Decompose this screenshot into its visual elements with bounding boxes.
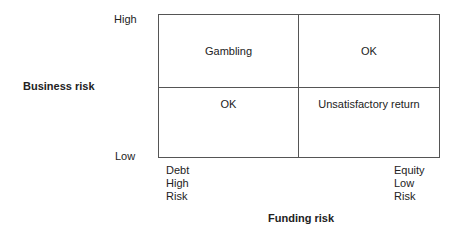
quadrant-bottom-right: Unsatisfactory return bbox=[299, 88, 439, 157]
y-axis-low-label: Low bbox=[115, 150, 135, 163]
x-left-line-1: Debt bbox=[166, 164, 189, 177]
x-axis-left-label: Debt High Risk bbox=[166, 164, 189, 203]
x-right-line-2: Low bbox=[394, 177, 425, 190]
quadrant-top-right: OK bbox=[299, 15, 439, 87]
x-axis-right-label: Equity Low Risk bbox=[394, 164, 425, 203]
quadrant-bottom-left: OK bbox=[159, 88, 298, 157]
quadrant-grid: Gambling OK OK Unsatisfactory return bbox=[158, 14, 440, 158]
x-left-line-3: Risk bbox=[166, 190, 189, 203]
quadrant-bottom-right-label: Unsatisfactory return bbox=[318, 98, 419, 110]
y-axis-title: Business risk bbox=[23, 80, 95, 93]
y-axis-high-label: High bbox=[114, 13, 137, 26]
quadrant-top-left-label: Gambling bbox=[205, 45, 252, 57]
x-left-line-2: High bbox=[166, 177, 189, 190]
x-right-line-1: Equity bbox=[394, 164, 425, 177]
x-right-line-3: Risk bbox=[394, 190, 425, 203]
quadrant-top-right-label: OK bbox=[361, 45, 377, 57]
quadrant-top-left: Gambling bbox=[159, 15, 298, 87]
quadrant-bottom-left-label: OK bbox=[221, 98, 237, 110]
x-axis-title: Funding risk bbox=[268, 212, 334, 225]
